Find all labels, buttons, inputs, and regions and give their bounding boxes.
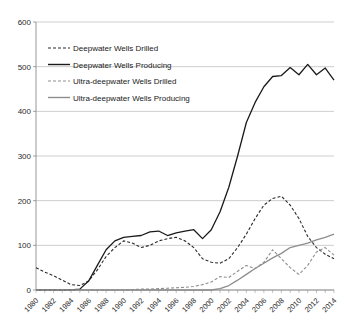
legend-label-3: Ultra-deepwater Wells Drilled (73, 77, 176, 86)
x-axis-tick-label: 2000 (198, 296, 216, 314)
x-axis-tick-label: 2008 (268, 296, 286, 314)
legend-label-1: Deepwater Wells Drilled (73, 44, 158, 53)
x-axis-tick-label: 1992 (127, 296, 145, 314)
x-axis-labels: 1980198219841986198819901992199419961998… (22, 296, 338, 314)
x-axis-tick-label: 1994 (145, 296, 163, 314)
x-axis-tick-label: 1988 (92, 296, 110, 314)
y-axis-tick-label: 600 (18, 18, 32, 27)
chart-legend: Deepwater Wells DrilledDeepwater Wells P… (48, 44, 190, 103)
x-axis-tick-label: 1984 (57, 296, 75, 314)
y-axis-tick-label: 500 (18, 63, 32, 72)
x-axis-tick-label: 1990 (110, 296, 128, 314)
series-line-1 (36, 196, 334, 285)
x-axis-tick-label: 2014 (320, 296, 338, 314)
x-axis-tick-label: 1980 (22, 296, 40, 314)
legend-label-2: Deepwater Wells Producing (73, 61, 172, 70)
line-chart: 0100200300400500600 19801982198419861988… (0, 0, 342, 331)
x-axis-tick-label: 1982 (40, 296, 58, 314)
x-axis-tick-label: 2006 (250, 296, 268, 314)
x-axis-tick-label: 2002 (215, 296, 233, 314)
y-axis-tick-label: 100 (18, 241, 32, 250)
x-axis-tick-label: 2010 (285, 296, 303, 314)
series-line-3 (36, 248, 334, 290)
chart-canvas: 0100200300400500600 19801982198419861988… (0, 0, 342, 331)
y-axis-ticks (33, 22, 36, 290)
y-axis-labels: 0100200300400500600 (18, 18, 32, 295)
y-axis-tick-label: 0 (27, 286, 32, 295)
x-axis-tick-label: 2004 (233, 296, 251, 314)
x-axis-tick-label: 1986 (75, 296, 93, 314)
x-axis-tick-label: 1996 (162, 296, 180, 314)
y-axis-tick-label: 400 (18, 107, 32, 116)
series-line-4 (36, 234, 334, 290)
x-axis-tick-label: 2012 (303, 296, 321, 314)
legend-label-4: Ultra-deepwater Wells Producing (73, 94, 190, 103)
y-axis-tick-label: 300 (18, 152, 32, 161)
y-axis-tick-label: 200 (18, 197, 32, 206)
x-axis-tick-label: 1998 (180, 296, 198, 314)
